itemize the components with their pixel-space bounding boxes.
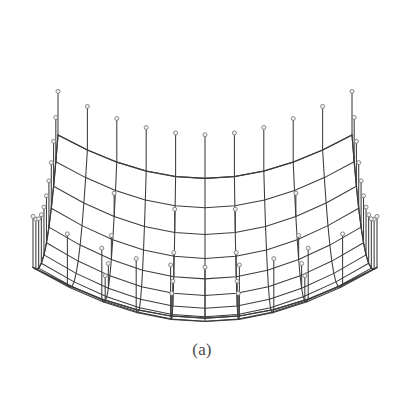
mesh-line-v — [102, 162, 117, 302]
strut-tip-marker — [174, 131, 178, 135]
strut-tip-marker — [369, 217, 373, 221]
strut-tip-marker — [109, 234, 113, 238]
strut-tip-marker — [233, 207, 237, 211]
strut-tip-marker — [170, 291, 174, 295]
strut-tip-marker — [237, 263, 241, 267]
strut-tip-marker — [49, 161, 53, 165]
strut-tip-marker — [37, 217, 41, 221]
strut-tip-marker — [39, 213, 43, 217]
strut-tip-marker — [232, 131, 236, 135]
strut-tip-marker — [350, 89, 354, 93]
strut-tip-marker — [294, 191, 298, 195]
mesh-line-v — [293, 162, 308, 302]
strut-tip-marker — [321, 104, 325, 108]
strut-tip-marker — [169, 263, 173, 267]
strut-tip-marker — [234, 251, 238, 255]
strut-tip-marker — [54, 115, 58, 119]
strut-tip-marker — [364, 205, 368, 209]
strut-tip-marker — [44, 194, 48, 198]
strut-tip-marker — [65, 232, 69, 236]
strut-tip-marker — [172, 251, 176, 255]
strut-tip-marker — [100, 246, 104, 250]
strut-tip-marker — [297, 234, 301, 238]
strut-tip-marker — [134, 257, 138, 261]
strut-tip-marker — [262, 125, 266, 129]
strut-tip-marker — [106, 261, 110, 265]
strut-tip-marker — [354, 139, 358, 143]
strut-tip-marker — [341, 232, 345, 236]
figure-caption: (a) — [0, 340, 404, 360]
strut-tip-marker — [367, 213, 371, 217]
strut-tip-marker — [362, 194, 366, 198]
strut-tip-marker — [352, 115, 356, 119]
mesh-line-v — [264, 171, 274, 313]
strut-tip-marker — [173, 207, 177, 211]
strut-tip-marker — [56, 89, 60, 93]
strut-tip-marker — [306, 246, 310, 250]
strut-tip-marker — [359, 179, 363, 183]
strut-tip-marker — [42, 205, 46, 209]
mesh-line-v — [136, 171, 146, 313]
strut-tip-marker — [235, 279, 239, 283]
strut-tip-marker — [291, 117, 295, 121]
strut-tip-marker — [203, 265, 207, 269]
strut-tip-marker — [115, 117, 119, 121]
strut-tip-marker — [357, 161, 361, 165]
strut-tip-marker — [300, 261, 304, 265]
strut-tip-marker — [47, 179, 51, 183]
strut-tip-marker — [272, 257, 276, 261]
strut-tip-marker — [203, 133, 207, 137]
strut-tip-marker — [85, 104, 89, 108]
strut-tip-marker — [52, 139, 56, 143]
strut-tip-marker — [112, 191, 116, 195]
strut-tip-marker — [236, 291, 240, 295]
strut-tip-marker — [303, 274, 307, 278]
strut-tip-marker — [144, 125, 148, 129]
strut-tip-marker — [103, 274, 107, 278]
strut-tip-marker — [171, 279, 175, 283]
wireframe-mesh-figure — [0, 0, 404, 394]
figure-panel: (a) — [0, 0, 404, 394]
